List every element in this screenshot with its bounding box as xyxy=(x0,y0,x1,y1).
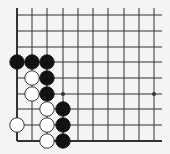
black-stone xyxy=(40,55,54,69)
black-stone xyxy=(56,134,70,148)
white-stone xyxy=(25,87,39,101)
white-stone xyxy=(40,134,54,148)
black-stone xyxy=(25,55,39,69)
white-stone xyxy=(25,71,39,85)
black-stone xyxy=(40,87,54,101)
star-point xyxy=(61,92,65,96)
white-stone xyxy=(40,118,54,132)
stones xyxy=(10,55,70,148)
black-stone xyxy=(10,55,24,69)
star-point xyxy=(152,92,156,96)
white-stone xyxy=(40,102,54,116)
black-stone xyxy=(40,71,54,85)
white-stone xyxy=(10,118,24,132)
black-stone xyxy=(56,118,70,132)
go-board xyxy=(0,0,170,154)
black-stone xyxy=(56,102,70,116)
